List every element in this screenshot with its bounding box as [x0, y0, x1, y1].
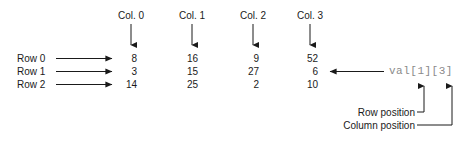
- cell-r1-c1: 15: [187, 66, 198, 77]
- cell-r0-c3: 52: [307, 53, 318, 64]
- row-label-0: Row 0: [17, 53, 45, 64]
- cell-r2-c0: 14: [126, 79, 137, 90]
- column-header-2: Col. 2: [240, 10, 266, 21]
- cell-r1-c3: 6: [312, 66, 318, 77]
- cell-r2-c2: 2: [253, 79, 259, 90]
- cell-r0-c0: 8: [131, 53, 137, 64]
- cell-r0-c1: 16: [187, 53, 198, 64]
- column-header-0: Col. 0: [118, 10, 144, 21]
- array-reference-expression: val[1][3]: [389, 65, 453, 77]
- cell-r2-c3: 10: [307, 79, 318, 90]
- cell-r1-c2: 27: [248, 66, 259, 77]
- column-position-leader: [417, 86, 452, 125]
- annotation-row-position: Row position: [358, 107, 415, 118]
- annotation-column-position: Column position: [343, 120, 415, 131]
- cell-r2-c1: 25: [187, 79, 198, 90]
- cell-r1-c0: 3: [131, 66, 137, 77]
- row-position-leader: [417, 86, 424, 112]
- row-label-1: Row 1: [17, 66, 45, 77]
- row-label-2: Row 2: [17, 79, 45, 90]
- column-header-3: Col. 3: [297, 10, 323, 21]
- column-header-1: Col. 1: [179, 10, 205, 21]
- array-indexing-figure: Col. 0 Col. 1 Col. 2 Col. 3 Row 0 Row 1 …: [0, 0, 473, 144]
- cell-r0-c2: 9: [253, 53, 259, 64]
